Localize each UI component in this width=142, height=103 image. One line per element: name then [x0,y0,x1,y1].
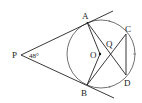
label-o: O [90,50,97,60]
label-angle-p: 48° [29,52,39,60]
tangent-pa [21,11,113,55]
label-b: B [81,88,87,98]
label-c: C [125,24,131,34]
label-p: P [12,50,17,60]
label-q: Q [106,39,113,49]
label-a: A [82,11,89,21]
center-point-o [99,53,101,55]
geometry-diagram: P 48° A B C D O Q [0,0,142,103]
label-d: D [124,78,131,88]
